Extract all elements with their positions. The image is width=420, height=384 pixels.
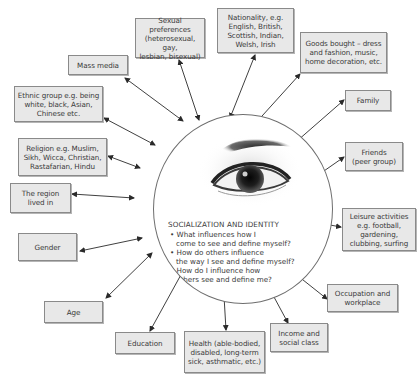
center-title: SOCIALIZATION AND IDENTITY	[168, 220, 333, 229]
node-sexual-preferences: Sexual preferences (heterosexual, gay, l…	[135, 18, 205, 58]
node-health: Health (able-bodied, disabled, long-term…	[184, 331, 265, 373]
node-religion: Religion e.g. Muslim, Sikh, Wicca, Chris…	[18, 138, 107, 176]
node-nationality: Nationality, e.g. English, British, Scot…	[217, 8, 294, 53]
node-gender: Gender	[18, 233, 77, 261]
node-income: Income and social class	[270, 323, 328, 352]
question-i-influence: • How do I influence how others see and …	[168, 266, 333, 284]
arrow-family	[297, 100, 344, 141]
question-influences: • What influences how I come to see and …	[168, 230, 333, 248]
arrow-region	[72, 194, 134, 198]
node-mass-media: Mass media	[68, 55, 128, 75]
node-education: Education	[115, 332, 175, 354]
center-circle: SOCIALIZATION AND IDENTITY • What influe…	[153, 114, 333, 304]
arrow-religion	[108, 156, 140, 168]
arrow-ethnic-group	[104, 118, 155, 145]
node-occupation: Occupation and workplace	[327, 284, 398, 312]
node-ethnic-group: Ethnic group e.g. being white, black, As…	[14, 86, 103, 122]
arrow-sexual-preferences	[179, 60, 199, 120]
node-goods-bought: Goods bought – dress and fashion, music,…	[300, 32, 387, 73]
node-region: The region lived in	[10, 183, 71, 213]
question-others-influence: • How do others influence the way I see …	[168, 248, 333, 266]
node-leisure: Leisure activities e.g. football, garden…	[342, 208, 416, 251]
arrow-age	[106, 253, 152, 298]
eye-icon	[192, 129, 302, 209]
node-age: Age	[44, 301, 103, 323]
node-friends: Friends (peer group)	[345, 142, 403, 171]
center-text: SOCIALIZATION AND IDENTITY • What influe…	[168, 220, 333, 284]
arrow-mass-media	[125, 78, 183, 121]
arrow-gender	[80, 238, 142, 251]
socialization-identity-diagram: SOCIALIZATION AND IDENTITY • What influe…	[0, 0, 420, 384]
arrow-nationality	[230, 55, 255, 118]
node-family: Family	[345, 90, 391, 111]
